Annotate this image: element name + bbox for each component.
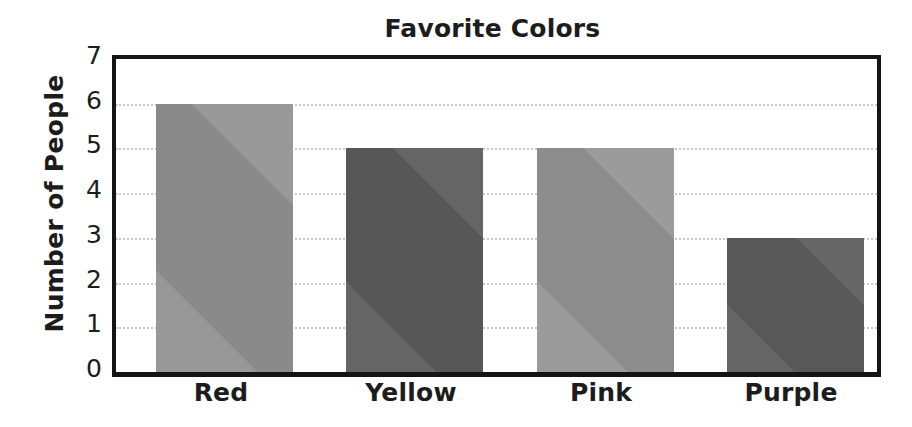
x-tick-label: Red bbox=[194, 378, 249, 407]
y-axis-tick-labels: 76543210 bbox=[62, 0, 102, 427]
bar-red bbox=[156, 104, 293, 372]
chart-title: Favorite Colors bbox=[112, 14, 873, 43]
bar-yellow bbox=[346, 148, 483, 372]
bar-pink bbox=[537, 148, 674, 372]
x-axis-tick-labels: RedYellowPinkPurple bbox=[112, 378, 873, 412]
y-tick-label: 0 bbox=[62, 356, 102, 381]
bar-purple bbox=[727, 238, 864, 372]
y-tick-label: 1 bbox=[62, 311, 102, 336]
plot-area bbox=[112, 55, 881, 377]
bar-chart-figure: Favorite Colors Number of People 7654321… bbox=[0, 0, 912, 427]
y-tick-label: 4 bbox=[62, 177, 102, 202]
y-tick-label: 5 bbox=[62, 132, 102, 157]
x-tick-label: Pink bbox=[570, 378, 632, 407]
bars-layer bbox=[116, 59, 877, 372]
x-tick-label: Purple bbox=[744, 378, 837, 407]
plot-inner bbox=[116, 59, 877, 372]
y-tick-label: 3 bbox=[62, 221, 102, 246]
x-tick-label: Yellow bbox=[365, 378, 456, 407]
y-tick-label: 6 bbox=[62, 87, 102, 112]
y-tick-label: 2 bbox=[62, 266, 102, 291]
y-tick-label: 7 bbox=[62, 43, 102, 68]
